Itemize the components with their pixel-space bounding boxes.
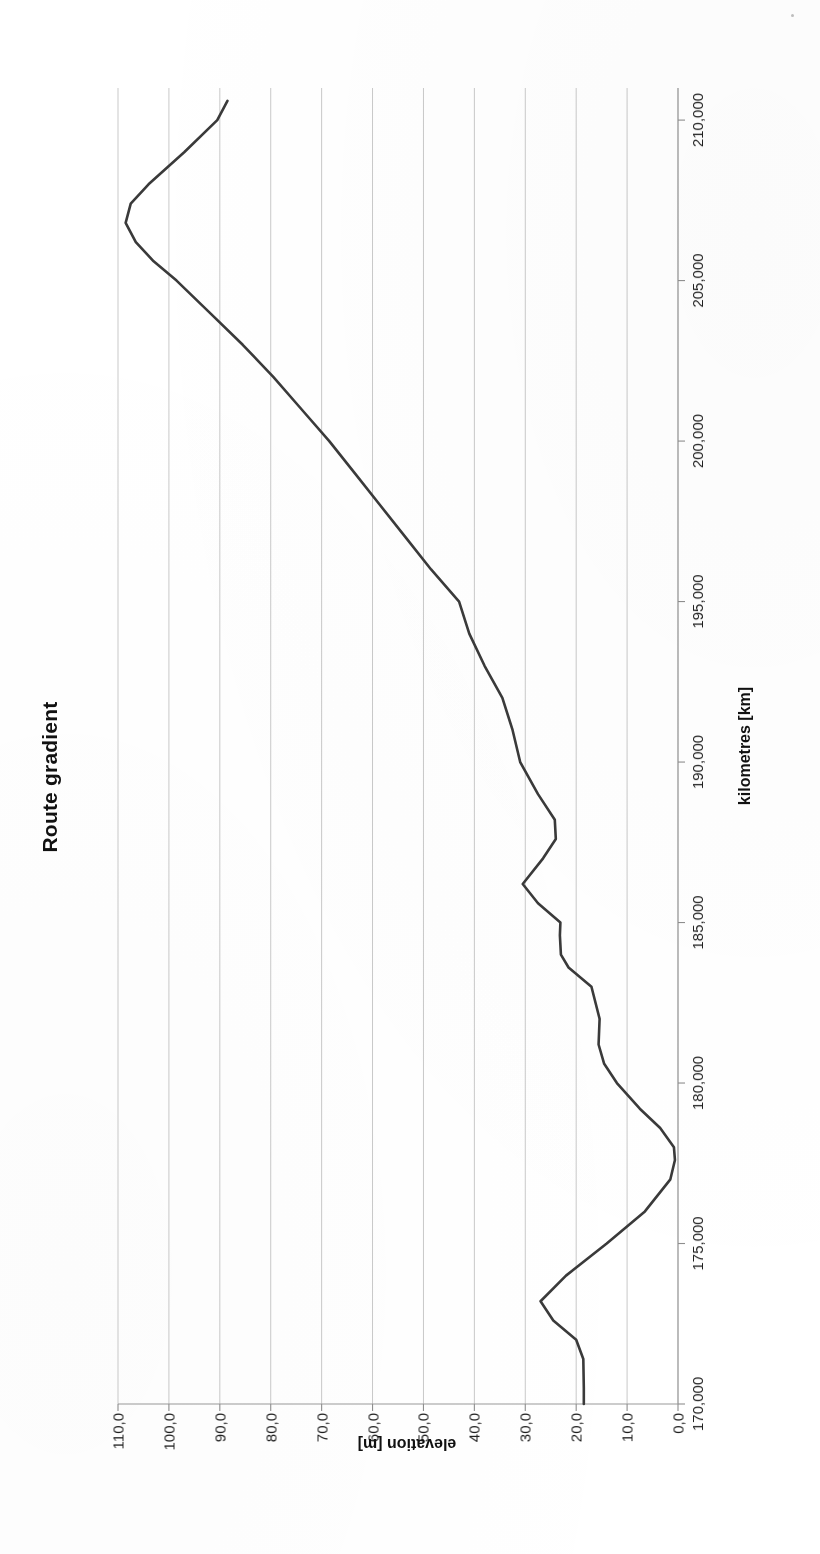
y-axis-tick-label: 20,0 bbox=[568, 1413, 585, 1442]
x-axis-tick-label: 210,000 bbox=[689, 93, 706, 147]
scanned-page: Route gradient 0,010,020,030,040,050,060… bbox=[0, 0, 820, 1554]
scan-speck bbox=[791, 14, 794, 17]
y-axis-tick-label: 110,0 bbox=[110, 1413, 127, 1449]
y-axis-tick-label: 80,0 bbox=[262, 1413, 279, 1442]
elevation-line-layer bbox=[118, 88, 678, 1404]
rotated-figure-wrapper: Route gradient 0,010,020,030,040,050,060… bbox=[0, 0, 820, 1554]
y-axis-tick-label: 0,0 bbox=[670, 1413, 687, 1434]
x-axis-tick-label: 190,000 bbox=[689, 735, 706, 789]
x-axis-title: kilometres [km] bbox=[736, 88, 754, 1404]
y-axis-tick-label: 100,0 bbox=[160, 1413, 177, 1451]
x-axis-tick-label: 205,000 bbox=[689, 253, 706, 307]
y-axis-tick-label: 90,0 bbox=[211, 1413, 228, 1442]
x-axis-tick-label: 200,000 bbox=[689, 414, 706, 468]
chart-figure: Route gradient 0,010,020,030,040,050,060… bbox=[0, 0, 820, 1554]
x-axis-tick-label: 185,000 bbox=[689, 895, 706, 949]
y-axis-tick-label: 10,0 bbox=[619, 1413, 636, 1442]
y-axis-title: elevation [m] bbox=[287, 1435, 527, 1453]
x-axis-tick-label: 170,000 bbox=[689, 1377, 706, 1431]
plot-area: 0,010,020,030,040,050,060,070,080,090,01… bbox=[118, 88, 678, 1404]
x-axis-tick-label: 175,000 bbox=[689, 1216, 706, 1270]
chart-title: Route gradient bbox=[38, 0, 62, 1554]
x-axis-tick-label: 180,000 bbox=[689, 1056, 706, 1110]
x-axis-tick-label: 195,000 bbox=[689, 574, 706, 628]
